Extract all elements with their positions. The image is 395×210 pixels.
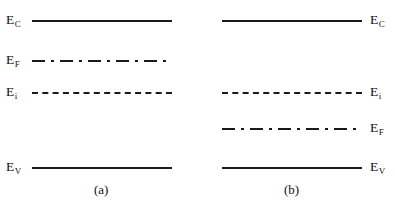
- panel-b-label-ec-sub: C: [379, 19, 385, 29]
- panel-b-label-ec-main: E: [370, 12, 378, 27]
- panel-a-level-line-ei: [32, 92, 172, 94]
- panel-a-label-ec-main: E: [6, 12, 14, 27]
- panel-a-level-label-ef: EF: [6, 53, 20, 67]
- panel-b-label-ef-main: E: [370, 120, 378, 135]
- panel-a-level-line-ec: [32, 20, 172, 22]
- panel-b-caption: (b): [284, 183, 299, 196]
- panel-b-level-line-ev: [222, 167, 362, 169]
- energy-band-diagram-figure: EC EF Ei EV (a) EC Ei EF EV (b): [0, 0, 395, 210]
- panel-b-label-ev-main: E: [370, 159, 378, 174]
- panel-b-level-label-ec: EC: [370, 13, 385, 27]
- panel-b-level-line-ec: [222, 20, 362, 22]
- panel-a-label-ei-main: E: [6, 84, 14, 99]
- panel-b-level-label-ev: EV: [370, 160, 385, 174]
- panel-a-level-line-ev: [32, 167, 172, 169]
- panel-b-level-line-ef: [222, 128, 362, 130]
- panel-b-label-ev-sub: V: [379, 166, 386, 176]
- panel-a-level-line-ef: [32, 60, 172, 62]
- panel-b-level-label-ei: Ei: [370, 85, 381, 99]
- panel-a-level-label-ei: Ei: [6, 85, 17, 99]
- panel-b-level-label-ef: EF: [370, 121, 384, 135]
- panel-a-level-label-ev: EV: [6, 160, 21, 174]
- panel-a-caption: (a): [94, 183, 108, 196]
- panel-b-label-ei-main: E: [370, 84, 378, 99]
- panel-a-label-ec-sub: C: [15, 19, 21, 29]
- panel-a-label-ev-main: E: [6, 159, 14, 174]
- panel-b-label-ef-sub: F: [379, 127, 384, 137]
- panel-a-label-ef-sub: F: [15, 59, 20, 69]
- panel-a-label-ef-main: E: [6, 52, 14, 67]
- panel-a-label-ei-sub: i: [15, 91, 18, 101]
- panel-b-level-line-ei: [222, 92, 362, 94]
- panel-a-label-ev-sub: V: [15, 166, 22, 176]
- panel-b-label-ei-sub: i: [379, 91, 382, 101]
- panel-a-level-label-ec: EC: [6, 13, 21, 27]
